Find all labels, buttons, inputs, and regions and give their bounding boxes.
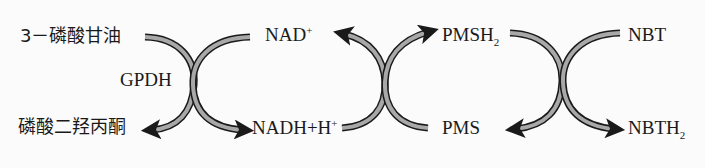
pmsh2-label: PMSH2 bbox=[442, 25, 499, 48]
arrow-pms-to-pmsh2 bbox=[385, 32, 428, 128]
cofactor-nadh-h-plus: NADH+H+ bbox=[252, 118, 338, 137]
arrow-nadh-to-nad bbox=[342, 34, 385, 128]
arrow-pmsh2-to-pms bbox=[510, 33, 562, 129]
substrate-glycerol-3-phosphate: 3－磷酸甘油 bbox=[20, 27, 121, 45]
enzyme-label-gpdh: GPDH bbox=[120, 70, 172, 89]
arrow-nad-to-nadh bbox=[193, 37, 250, 130]
reaction-diagram: 3－磷酸甘油 GPDH 磷酸二羟丙酮 NAD+ NADH+H+ PMSH2 PM… bbox=[0, 0, 705, 168]
nbth2-label: NBTH2 bbox=[628, 118, 685, 141]
pms-label: PMS bbox=[442, 118, 480, 137]
arrow-nbt-to-nbth2 bbox=[563, 33, 620, 129]
cofactor-nad-plus: NAD+ bbox=[265, 25, 312, 44]
product-dihydroxyacetone-phosphate: 磷酸二羟丙酮 bbox=[18, 118, 126, 136]
nbt-label: NBT bbox=[628, 25, 666, 44]
